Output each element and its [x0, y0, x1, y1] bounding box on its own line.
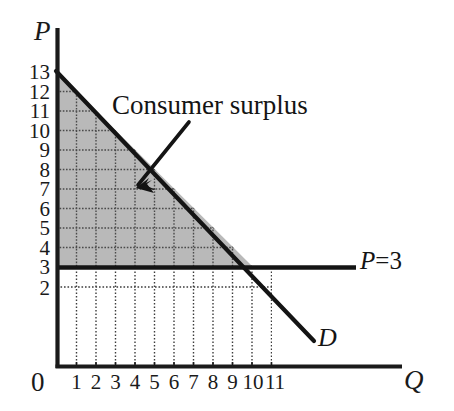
price-line-label-symbol: P [360, 247, 375, 274]
consumer-surplus-figure: P Q 0 13 12 11 10 9 8 7 6 5 4 3 2 1 2 3 … [0, 0, 454, 411]
x-tick-1: 1 [71, 372, 82, 393]
price-line-label: P=3 [360, 248, 402, 273]
x-tick-2: 2 [91, 372, 102, 393]
x-axis-tick-labels: 1 2 3 4 5 6 7 8 9 10 11 [0, 0, 454, 411]
x-tick-5: 5 [149, 372, 160, 393]
x-tick-4: 4 [130, 372, 141, 393]
x-tick-10: 10 [243, 372, 264, 393]
x-tick-9: 9 [227, 372, 238, 393]
price-line-label-equals: = [375, 247, 389, 274]
x-tick-11: 11 [265, 372, 285, 393]
x-tick-6: 6 [169, 372, 180, 393]
x-tick-8: 8 [208, 372, 219, 393]
demand-curve-label: D [318, 325, 337, 351]
price-line-label-value: 3 [389, 247, 402, 274]
x-tick-3: 3 [110, 372, 121, 393]
x-tick-7: 7 [188, 372, 199, 393]
consumer-surplus-label: Consumer surplus [112, 92, 308, 119]
